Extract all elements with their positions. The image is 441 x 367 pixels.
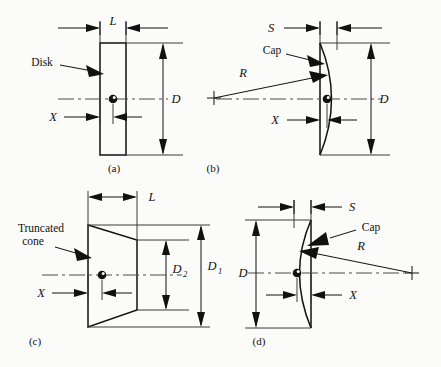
arrow-X-b-left	[306, 116, 320, 124]
dim-label-D2: D	[171, 262, 181, 276]
hub-marker-d	[293, 269, 302, 278]
panel-c: L Truncated cone X	[18, 190, 222, 348]
radius-line-R-b	[214, 76, 322, 98]
arrow-D-b-top	[367, 43, 375, 59]
dim-label-L-c: L	[148, 190, 156, 204]
arrow-X-a-right	[113, 113, 127, 121]
arrow-D-b-bottom	[367, 139, 375, 155]
callout-label-truncated-line2: cone	[22, 235, 44, 247]
arrow-L-left	[86, 24, 100, 32]
dim-label-X-b: X	[270, 113, 280, 127]
arrow-D2-bottom	[162, 295, 170, 310]
leader-line-cap-d	[330, 230, 356, 238]
dim-label-X-c: X	[36, 286, 46, 300]
dim-label-S-d: S	[349, 200, 356, 214]
hub-center-dot-d	[297, 270, 300, 273]
radius-line-R-d	[308, 252, 412, 273]
dim-label-D-a: D	[170, 92, 180, 106]
arrow-D2-top	[162, 240, 170, 255]
arrow-D-d-bottom	[252, 312, 260, 328]
panel-caption-a: (a)	[108, 162, 121, 175]
arrow-L-c-right	[123, 193, 137, 201]
arrow-X-a-left	[86, 113, 100, 121]
callout-label-cap-d: Cap	[362, 221, 381, 234]
callout-label-cap-b: Cap	[263, 44, 282, 57]
dim-label-R-b: R	[238, 66, 247, 80]
arrow-X-d-left	[283, 291, 297, 299]
dim-label-X-d: X	[348, 288, 358, 302]
panel-caption-d: (d)	[253, 335, 266, 348]
hub-center-dot-b	[327, 96, 330, 99]
leader-arrow-cone	[74, 248, 92, 261]
callout-label-disk: Disk	[31, 56, 53, 68]
dim-label-D1: D	[206, 259, 216, 273]
arrow-S-d-right	[311, 203, 325, 211]
panel-a: L Disk X D	[31, 14, 183, 175]
truncated-cone-shape	[88, 225, 137, 327]
dim-label-D-b: D	[378, 92, 388, 106]
arrow-D1-top	[197, 225, 205, 240]
dim-label-R-d: R	[356, 239, 365, 253]
panel-d: S Cap R X	[237, 200, 419, 348]
engineering-diagram-svg: L Disk X D	[0, 0, 441, 367]
hub-center-dot-a	[113, 96, 116, 99]
arrow-X-c-left	[74, 289, 88, 297]
arrow-S-d-left	[280, 203, 294, 211]
dim-label-D1-subscript: 1	[218, 266, 222, 276]
dim-label-S-b: S	[268, 21, 275, 35]
arrow-D1-bottom	[197, 312, 205, 327]
arrow-D-d-top	[252, 220, 260, 236]
figure-root: L Disk X D	[0, 0, 441, 367]
dim-label-X-a: X	[48, 110, 58, 124]
hub-marker-c	[98, 271, 107, 280]
arrow-X-c-right	[102, 289, 116, 297]
dim-label-L-a: L	[109, 14, 117, 28]
arrow-S-b-right	[337, 24, 351, 32]
hub-marker-a	[109, 95, 118, 104]
arrow-X-d-right	[311, 291, 325, 299]
hub-marker-b	[323, 95, 332, 104]
hub-center-dot-c	[102, 272, 105, 275]
arrow-D-a-top	[159, 43, 167, 59]
panel-caption-b: (b)	[207, 162, 220, 175]
radius-arrow-R-b	[309, 71, 328, 83]
cap-arc-d	[300, 220, 312, 328]
callout-label-truncated-line1: Truncated	[18, 222, 64, 234]
leader-arrow-disk	[86, 65, 104, 77]
dim-label-D-d: D	[237, 266, 247, 280]
arrow-S-b-left	[306, 24, 320, 32]
arrow-L-c-left	[88, 193, 102, 201]
leader-arrow-cap-b	[307, 55, 325, 67]
arrow-D-a-bottom	[159, 139, 167, 155]
panel-caption-c: (c)	[29, 335, 42, 348]
panel-b: S Cap R X	[207, 21, 390, 175]
dim-label-D2-subscript: 2	[183, 269, 188, 279]
